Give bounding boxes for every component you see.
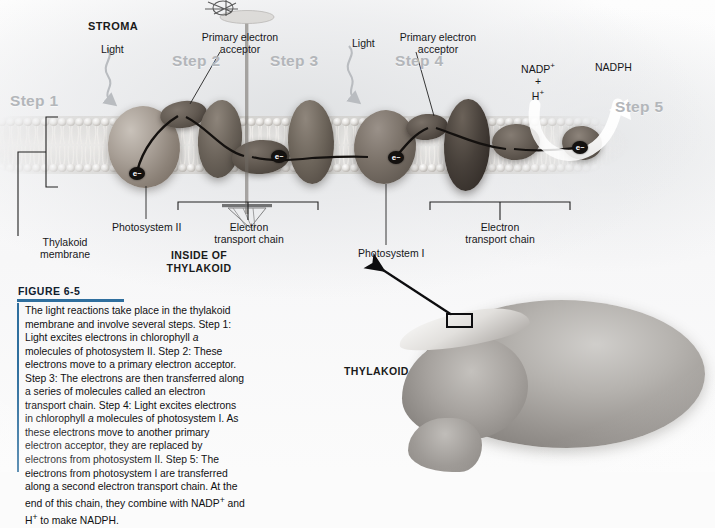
etc-right-line1: Electron [457, 222, 543, 234]
primary-electron-acceptor-label-right: Primary electron acceptor [386, 32, 490, 56]
electron-transport-chain-label-left: Electron transport chain [206, 222, 292, 246]
callout-highlight-box [446, 313, 473, 328]
light-label-left: Light [101, 44, 124, 56]
membrane-line1: Thylakoid [28, 237, 102, 249]
etc-left-line2: transport chain [206, 234, 292, 246]
acceptor-left-line1: Primary electron [188, 32, 292, 44]
acceptor-left-line2: acceptor [188, 44, 292, 56]
primary-electron-acceptor-label-left: Primary electron acceptor [188, 32, 292, 56]
figure-number: FIGURE 6-5 [18, 285, 80, 297]
electron-marker-1: e− [129, 167, 145, 180]
inside-line1: INSIDE OF [146, 249, 252, 262]
photosystem-i-label: Photosystem I [358, 248, 425, 260]
etc-left-line1: Electron [206, 222, 292, 234]
membrane-line2: membrane [28, 249, 102, 261]
step-label-1: Step 1 [10, 92, 58, 110]
figure-rule [17, 299, 124, 302]
nadp-line1: NADP+ [508, 60, 568, 75]
thylakoid-organelle-tail [408, 418, 482, 472]
electron-marker-3: e− [388, 151, 404, 164]
thylakoid-organelle-label: THYLAKOID [344, 366, 409, 378]
acceptor-right-line1: Primary electron [386, 32, 490, 44]
light-label-right: Light [352, 38, 375, 50]
step-label-5: Step 5 [615, 98, 663, 116]
nadp-plus-label: NADP+ + H+ [508, 60, 568, 101]
electron-marker-2: e− [271, 150, 287, 163]
inside-of-thylakoid-label: INSIDE OF THYLAKOID [146, 249, 252, 274]
etc-right-line2: transport chain [457, 234, 543, 246]
photosystem-ii-label: Photosystem II [112, 222, 181, 234]
acceptor-right-line2: acceptor [386, 44, 490, 56]
electron-transport-chain-label-right: Electron transport chain [457, 222, 543, 246]
nadp-line3: H+ [508, 87, 568, 102]
nadp-line2: + [508, 75, 568, 87]
nadph-label: NADPH [595, 62, 632, 74]
inside-line2: THYLAKOID [146, 262, 252, 275]
stroma-label: STROMA [88, 20, 138, 32]
electron-marker-4: e− [572, 141, 588, 154]
thylakoid-membrane-label: Thylakoid membrane [28, 237, 102, 261]
figure-caption-text: The light reactions take place in the th… [25, 304, 247, 528]
